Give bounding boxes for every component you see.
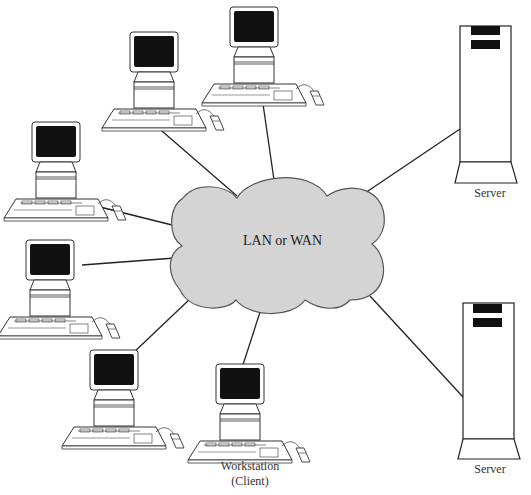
workstation-icon <box>0 240 120 339</box>
server-bottom-label: Server <box>462 462 518 477</box>
workstation-label-line1: Workstation <box>200 459 300 474</box>
workstation-icon <box>188 364 310 463</box>
workstation-icon <box>102 32 224 131</box>
workstation-label: Workstation (Client) <box>200 459 300 489</box>
workstation-icon <box>4 122 126 221</box>
workstation-label-line2: (Client) <box>200 474 300 489</box>
server-top-label: Server <box>462 186 518 201</box>
server-icon <box>458 303 520 459</box>
server-icon <box>455 26 517 183</box>
network-label: LAN or WAN <box>243 233 322 249</box>
workstation-icon <box>202 7 324 106</box>
workstation-icon <box>62 350 184 449</box>
